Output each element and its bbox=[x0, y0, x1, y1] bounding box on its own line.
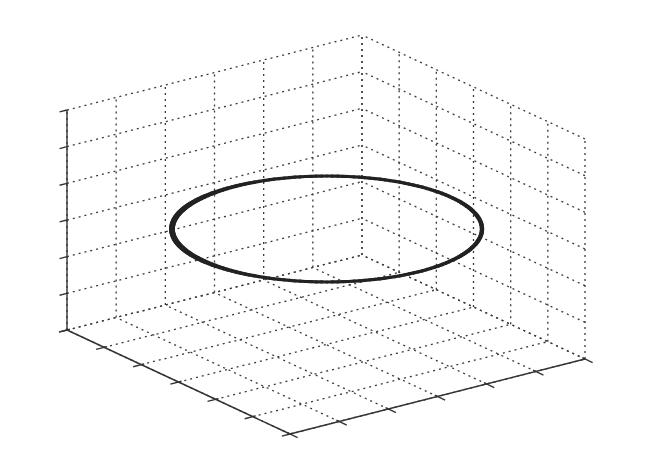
floor-grid-line bbox=[216, 324, 511, 399]
axes bbox=[59, 110, 593, 438]
floor-grid-line bbox=[179, 307, 474, 382]
floor-grid-line bbox=[116, 318, 339, 422]
floor-grid-line bbox=[141, 290, 436, 365]
grid-lines bbox=[67, 35, 585, 434]
z-axis-tick bbox=[60, 330, 67, 332]
circle-curve bbox=[172, 176, 482, 282]
y-axis-tick bbox=[582, 358, 592, 363]
3d-plot-canvas bbox=[0, 0, 645, 476]
floor-grid-line bbox=[215, 293, 438, 397]
floor-grid-line bbox=[165, 305, 388, 409]
z-axis-tick bbox=[60, 183, 67, 185]
right-wall-grid-line bbox=[362, 35, 585, 139]
z-axis-tick bbox=[60, 110, 67, 112]
floor-grid-line bbox=[264, 280, 487, 384]
z-axis-tick bbox=[60, 257, 67, 259]
z-axis-tick bbox=[60, 293, 67, 295]
z-axis-tick bbox=[60, 220, 67, 222]
figure bbox=[0, 0, 645, 476]
z-axis-tick bbox=[60, 147, 67, 149]
